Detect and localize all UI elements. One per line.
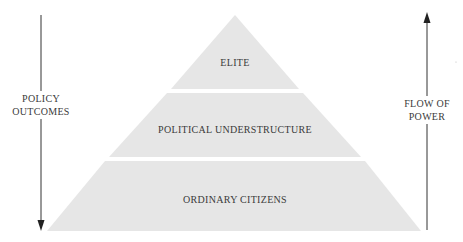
policy-outcomes-label: POLICY OUTCOMES	[12, 91, 69, 119]
tier-political-understructure-label: POLITICAL UNDERSTRUCTURE	[158, 124, 312, 135]
flow-of-power-line-2: POWER	[404, 110, 450, 123]
policy-outcomes-line-1: POLICY	[12, 92, 69, 105]
tier-elite-label: ELITE	[220, 57, 249, 68]
policy-outcomes-arrow	[38, 15, 45, 231]
tier-elite-shape	[171, 15, 299, 89]
policy-outcomes-line-2: OUTCOMES	[12, 105, 69, 118]
flow-of-power-label: FLOW OF POWER	[404, 96, 450, 124]
arrow-down-icon	[38, 220, 45, 231]
arrow-up-icon	[424, 12, 431, 23]
tier-ordinary-citizens-label: ORDINARY CITIZENS	[183, 194, 287, 205]
pyramid-diagram	[0, 0, 463, 242]
speck-mark	[455, 61, 456, 62]
flow-of-power-line-1: FLOW OF	[404, 97, 450, 110]
